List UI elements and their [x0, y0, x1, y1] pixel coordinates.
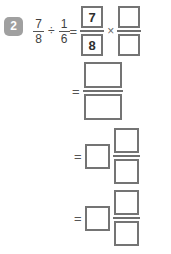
divisor-numerator: 1 — [60, 18, 69, 30]
equation-row-2: = — [72, 62, 123, 120]
step4-numerator-box[interactable] — [114, 190, 139, 215]
step3-fraction-bar — [113, 155, 140, 157]
step2-fraction-bar — [83, 90, 123, 92]
equals-symbol-2: = — [72, 85, 80, 98]
division-symbol: ÷ — [48, 25, 55, 37]
equation-row-3: = — [74, 128, 140, 184]
equals-symbol-4: = — [74, 212, 82, 225]
step1-right-boxed-fraction — [117, 6, 141, 56]
step4-denominator-box[interactable] — [114, 221, 139, 246]
equals-symbol-1: = — [70, 25, 78, 38]
step2-denominator-box[interactable] — [84, 94, 122, 120]
dividend-denominator: 8 — [34, 33, 43, 45]
dividend-fraction: 7 8 — [33, 18, 44, 45]
step1-right-denominator-box[interactable] — [118, 34, 140, 56]
step2-numerator-box[interactable] — [84, 62, 122, 88]
step4-mixed-number — [85, 190, 140, 246]
multiplication-symbol: × — [107, 25, 114, 37]
step4-whole-number-box[interactable] — [85, 206, 110, 231]
step3-numerator-box[interactable] — [114, 128, 139, 153]
divisor-denominator: 6 — [60, 33, 69, 45]
step3-denominator-box[interactable] — [114, 159, 139, 184]
equation-row-1: 7 8 ÷ 1 6 = 7 8 × — [33, 6, 141, 56]
step2-boxed-fraction — [83, 62, 123, 120]
problem-number-badge: 2 — [4, 17, 23, 36]
step1-right-fraction-bar — [117, 30, 141, 32]
step1-right-numerator-box[interactable] — [118, 6, 140, 28]
equals-symbol-3: = — [74, 150, 82, 163]
step3-boxed-fraction — [113, 128, 140, 184]
step1-left-denominator-box[interactable]: 8 — [81, 34, 103, 56]
step4-fraction-bar — [113, 217, 140, 219]
equation-row-4: = — [74, 190, 140, 246]
divisor-fraction: 1 6 — [59, 18, 70, 45]
step1-left-numerator-box[interactable]: 7 — [81, 6, 103, 28]
worksheet-problem: 2 7 8 ÷ 1 6 = 7 8 × — [0, 0, 171, 254]
dividend-numerator: 7 — [34, 18, 43, 30]
step3-whole-number-box[interactable] — [85, 144, 110, 169]
step1-left-boxed-fraction: 7 8 — [80, 6, 104, 56]
step1-left-fraction-bar — [80, 30, 104, 32]
step4-boxed-fraction — [113, 190, 140, 246]
step3-mixed-number — [85, 128, 140, 184]
